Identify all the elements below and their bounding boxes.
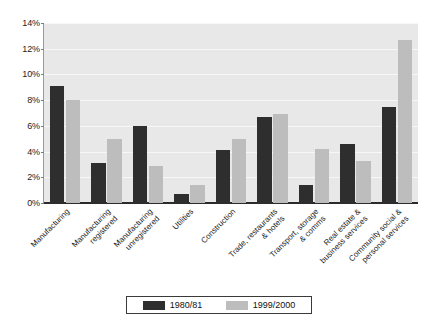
legend-label-1980: 1980/81 <box>170 300 203 310</box>
bar <box>356 161 371 203</box>
bar <box>133 126 148 203</box>
y-axis-tick-label: 8% <box>0 95 40 105</box>
bar <box>382 107 397 203</box>
y-axis-tick-label: 2% <box>0 172 40 182</box>
bar <box>340 144 355 203</box>
legend-swatch-1980 <box>143 301 165 310</box>
bar <box>299 185 314 203</box>
chart-legend: 1980/81 1999/2000 <box>126 296 312 314</box>
y-axis-tick-mark <box>41 203 44 204</box>
bar-chart: 0%2%4%6%8%10%12%14% ManufacturingManufac… <box>0 0 434 331</box>
y-axis-tick-label: 4% <box>0 147 40 157</box>
legend-item: 1999/2000 <box>226 300 296 310</box>
bar <box>107 139 122 203</box>
legend-item: 1980/81 <box>143 300 203 310</box>
bar <box>216 150 231 203</box>
bar <box>66 100 81 203</box>
bar <box>50 86 65 203</box>
bar <box>398 40 413 203</box>
y-axis-tick-label: 12% <box>0 44 40 54</box>
bar <box>315 149 330 203</box>
bar <box>273 114 288 203</box>
bar <box>257 117 272 203</box>
y-axis-tick-label: 14% <box>0 18 40 28</box>
legend-label-1999: 1999/2000 <box>253 300 296 310</box>
bar <box>149 166 164 203</box>
x-axis-tick-labels: ManufacturingManufacturingregisteredManu… <box>0 205 434 290</box>
legend-swatch-1999 <box>226 301 248 310</box>
y-axis-tick-label: 6% <box>0 121 40 131</box>
bar <box>91 163 106 203</box>
bar <box>190 185 205 203</box>
bar-series-group <box>44 23 418 203</box>
y-axis-tick-label: 10% <box>0 69 40 79</box>
bar <box>174 194 189 203</box>
bar <box>232 139 247 203</box>
